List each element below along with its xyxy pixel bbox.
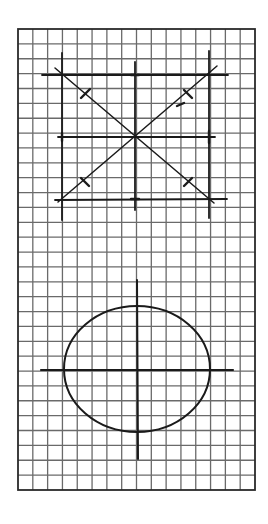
symmetry-cross-figure xyxy=(42,51,228,220)
diagonal-line xyxy=(58,66,217,202)
grid-paper xyxy=(18,29,255,490)
horizontal-line xyxy=(55,199,227,200)
graph-paper-drawing xyxy=(0,0,268,524)
vertical-axis xyxy=(137,280,138,459)
ellipse-figure xyxy=(41,280,233,459)
